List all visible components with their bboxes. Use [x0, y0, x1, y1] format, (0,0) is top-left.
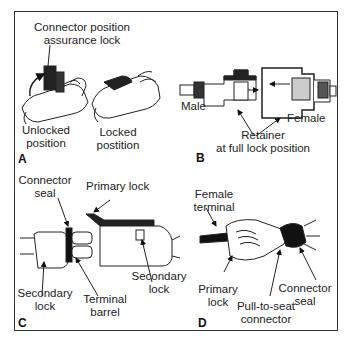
female-terminal-line2: terminal: [186, 201, 242, 214]
panel-c-letter: C: [18, 316, 27, 330]
connector-seal-label-d: Connector seal: [274, 282, 336, 308]
retainer-label: Retainer at full lock position: [208, 129, 318, 155]
seal-c-line1: Connector: [14, 174, 76, 187]
female-connector-drawing: [262, 68, 336, 118]
retainer-line2: at full lock position: [208, 142, 318, 155]
primary-lock-d-line1: Primary: [194, 283, 242, 296]
seal-d-line1: Connector: [274, 282, 336, 295]
secondary-right-line1: Secondary: [128, 270, 190, 283]
secondary-right-line2: lock: [128, 283, 190, 296]
unlocked-line2: position: [16, 137, 76, 150]
terminal-line2: barrel: [76, 306, 134, 319]
secondary-left-line1: Secondary: [16, 287, 74, 300]
seal-d-line2: seal: [274, 295, 336, 308]
panel-a-letter: A: [18, 152, 27, 166]
primary-lock-label-c: Primary lock: [86, 180, 149, 193]
retainer-line1: Retainer: [208, 129, 318, 142]
locked-line1: Locked: [88, 126, 148, 139]
secondary-lock-left-label: Secondary lock: [16, 287, 74, 313]
panel-d-letter: D: [198, 316, 207, 330]
seal-c-line2: seal: [14, 187, 76, 200]
cpa-lock-label: Connector position assurance lock: [22, 21, 142, 47]
unlocked-connector-drawing: [22, 45, 88, 124]
secondary-lock-right-label: Secondary lock: [128, 270, 190, 296]
locked-connector-drawing: [92, 72, 160, 123]
terminal-barrel-label: Terminal barrel: [76, 293, 134, 319]
cpa-lock-label-line1: Connector position: [22, 21, 142, 34]
panel-b-letter: B: [196, 151, 205, 165]
terminal-line1: Terminal: [76, 293, 134, 306]
unlocked-line1: Unlocked: [16, 124, 76, 137]
locked-line2: postition: [88, 139, 148, 152]
pull-to-seat-line2: connector: [226, 313, 306, 326]
female-terminal-line1: Female: [186, 188, 242, 201]
male-label: Male: [181, 100, 206, 113]
female-terminal-label: Female terminal: [186, 188, 242, 214]
secondary-left-line2: lock: [16, 300, 74, 313]
female-label: Female: [287, 112, 325, 125]
unlocked-position-label: Unlocked position: [16, 124, 76, 150]
connector-seal-label-c: Connector seal: [14, 174, 76, 200]
cpa-lock-label-line2: assurance lock: [22, 34, 142, 47]
locked-position-label: Locked postition: [88, 126, 148, 152]
